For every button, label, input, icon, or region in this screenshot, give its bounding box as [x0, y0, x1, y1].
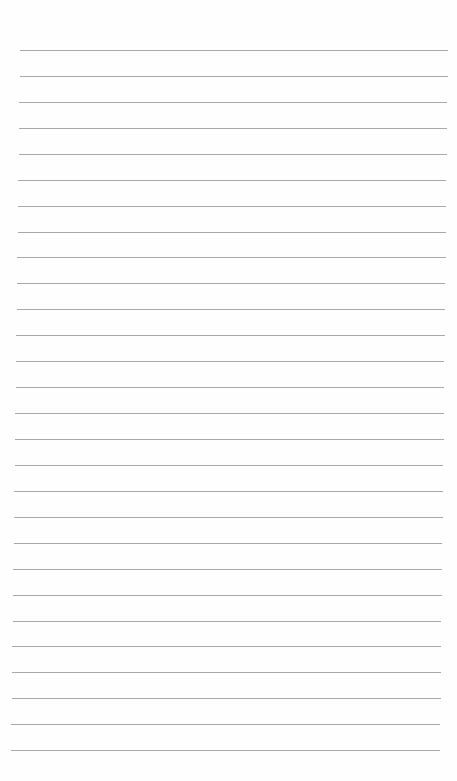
ruled-line — [16, 361, 444, 362]
ruled-line — [13, 595, 442, 596]
ruled-line — [11, 724, 440, 725]
ruled-line — [14, 517, 443, 518]
ruled-line — [18, 232, 446, 233]
ruled-line — [15, 465, 444, 466]
ruled-line — [19, 154, 447, 155]
ruled-line — [11, 750, 440, 751]
ruled-line — [13, 569, 442, 570]
ruled-line — [12, 672, 441, 673]
ruled-line — [16, 387, 445, 388]
ruled-line — [16, 335, 444, 336]
ruled-line — [15, 439, 444, 440]
ruled-line — [15, 413, 444, 414]
ruled-line — [13, 621, 442, 622]
ruled-line — [19, 102, 447, 103]
ruled-line — [20, 50, 448, 51]
ruled-line — [18, 180, 446, 181]
lined-paper — [0, 0, 457, 781]
ruled-line — [19, 128, 447, 129]
ruled-line — [12, 646, 441, 647]
ruled-line — [17, 309, 445, 310]
ruled-line — [20, 76, 448, 77]
ruled-line — [14, 491, 443, 492]
ruled-line — [17, 257, 445, 258]
ruled-line — [12, 698, 441, 699]
ruled-line — [18, 206, 446, 207]
ruled-line — [17, 283, 445, 284]
ruled-line — [14, 543, 443, 544]
